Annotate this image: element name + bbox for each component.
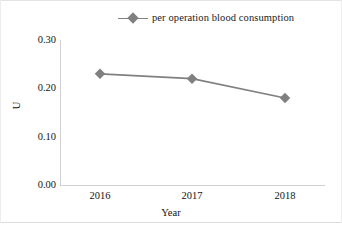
data-point-2016 bbox=[95, 69, 105, 79]
chart-figure: per operation blood consumption 0.30 0.2… bbox=[0, 0, 342, 235]
series-markers bbox=[95, 69, 290, 104]
data-point-2018 bbox=[280, 93, 290, 103]
plot-area: 0.30 0.20 0.10 0.00 2016 2017 2018 U Yea… bbox=[0, 0, 342, 235]
data-point-2017 bbox=[187, 73, 197, 83]
series-per-operation-blood-consumption bbox=[0, 0, 342, 235]
